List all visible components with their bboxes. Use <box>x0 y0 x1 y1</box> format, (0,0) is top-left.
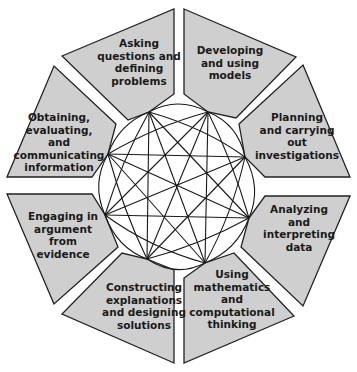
practice-label-models: Developing and using models <box>185 44 275 82</box>
connection-web <box>105 112 249 263</box>
practice-label-communicating: Obtaining, evaluating, and communicating… <box>8 111 110 174</box>
practice-label-explanations: Constructing explanations and designing … <box>90 281 198 331</box>
practice-label-argument: Engaging in argument from evidence <box>20 210 106 260</box>
practice-label-investigations: Planning and carrying out investigations <box>244 111 350 161</box>
practice-label-analyzing: Analyzing and interpreting data <box>254 203 344 253</box>
practice-label-asking: Asking questions and defining problems <box>90 37 188 87</box>
